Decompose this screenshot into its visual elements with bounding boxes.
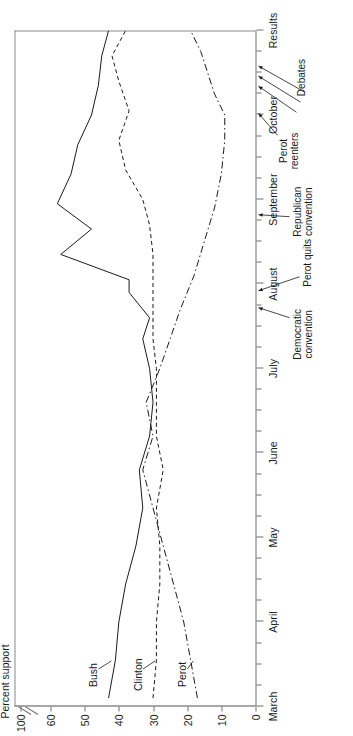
- x-tick-label-july: July: [266, 358, 278, 377]
- x-tick-minor: [256, 494, 261, 495]
- x-tick-label-august: August: [266, 267, 278, 300]
- x-tick-label-october: October: [266, 95, 278, 133]
- y-tick: [255, 706, 256, 711]
- y-tick-label-0: 0: [249, 714, 261, 736]
- x-tick-major: [256, 621, 263, 622]
- x-tick-minor: [256, 388, 261, 389]
- x-tick-label-september: September: [266, 173, 278, 225]
- x-tick-major: [256, 283, 263, 284]
- x-tick-major: [256, 705, 263, 706]
- x-tick-minor: [256, 684, 261, 685]
- x-tick-major: [256, 367, 263, 368]
- annotation-arrow: [258, 76, 262, 80]
- y-tick: [153, 706, 154, 711]
- x-tick-label-june: June: [266, 441, 278, 464]
- x-tick-minor: [256, 304, 261, 305]
- x-tick-minor: [256, 177, 261, 178]
- x-tick-minor: [256, 409, 261, 410]
- x-tick-minor: [256, 50, 261, 51]
- annotation-text: Democratic: [291, 309, 302, 360]
- y-tick: [221, 706, 222, 711]
- y-tick: [187, 706, 188, 711]
- x-tick-minor: [256, 473, 261, 474]
- y-tick: [50, 706, 51, 711]
- annotation-debates: Debates: [295, 58, 306, 95]
- x-tick-label-may: May: [266, 527, 278, 547]
- y-tick: [118, 706, 119, 711]
- x-tick-major: [256, 198, 263, 199]
- annotation-text: reenters: [288, 132, 299, 169]
- x-tick-minor: [256, 135, 261, 136]
- x-tick-major: [256, 29, 263, 30]
- rotated-figure-wrapper: Percent support MarchAprilMayJuneJulyAug…: [0, 0, 353, 736]
- annotation-arrow: [258, 86, 262, 90]
- x-tick-label-march: March: [266, 691, 278, 721]
- y-tick-label-60: 60: [44, 714, 56, 736]
- leader-line: [258, 307, 289, 317]
- x-tick-label-april: April: [266, 611, 278, 633]
- x-tick-minor: [256, 325, 261, 326]
- annotation-text: convention: [302, 309, 313, 360]
- y-tick-label-50: 50: [78, 714, 90, 736]
- x-tick-major: [256, 536, 263, 537]
- x-tick-minor: [256, 92, 261, 93]
- x-tick-label-results: Results: [266, 12, 278, 48]
- series-line-clinton: [112, 30, 163, 698]
- x-tick-minor: [256, 599, 261, 600]
- annotation-perot-reenters: Perotreenters: [277, 132, 299, 169]
- annotation-text: convention: [302, 186, 313, 236]
- y-axis-break: [26, 698, 40, 714]
- x-tick-minor: [256, 578, 261, 579]
- x-tick-minor: [256, 557, 261, 558]
- series-label-clinton: Clinton: [131, 658, 143, 691]
- y-tick-label-40: 40: [112, 714, 124, 736]
- x-tick-minor: [256, 156, 261, 157]
- y-tick-label-20: 20: [181, 714, 193, 736]
- y-tick-label-10: 10: [215, 714, 227, 736]
- annotation-perot-quits: Perot quits: [301, 238, 312, 286]
- y-tick-label-30: 30: [147, 714, 159, 736]
- y-axis-title: Percent support: [0, 644, 10, 718]
- x-tick-major: [256, 452, 263, 453]
- x-tick-minor: [256, 515, 261, 516]
- series-label-perot: Perot: [175, 661, 187, 686]
- annotation-text: Perot: [277, 132, 288, 169]
- annotation-arrow: [258, 307, 262, 310]
- annotation-text: Debates: [295, 58, 306, 95]
- series-line-bush: [57, 30, 153, 698]
- x-tick-minor: [256, 663, 261, 664]
- series-line-perot: [142, 30, 224, 698]
- annotation-arrow: [258, 287, 262, 290]
- series-label-bush: Bush: [86, 663, 98, 687]
- x-tick-minor: [256, 240, 261, 241]
- x-tick-minor: [256, 71, 261, 72]
- x-tick-minor: [256, 430, 261, 431]
- annotation-arrow: [258, 213, 262, 217]
- y-tick: [84, 706, 85, 711]
- x-tick-minor: [256, 346, 261, 347]
- y-tick-label-100: 100: [14, 714, 26, 736]
- poll-line-chart: Percent support MarchAprilMayJuneJulyAug…: [0, 0, 353, 736]
- annotation-arrow: [258, 65, 262, 69]
- annotation-republican-convention: Republicanconvention: [291, 186, 313, 236]
- leader-line: [258, 276, 299, 290]
- series-lines: [14, 30, 255, 706]
- annotation-democratic-convention: Democraticconvention: [291, 309, 313, 360]
- annotation-text: Republican: [291, 186, 302, 236]
- x-tick-minor: [256, 261, 261, 262]
- leader-line: [258, 76, 300, 102]
- x-tick-major: [256, 114, 263, 115]
- annotation-text: Perot quits: [301, 238, 312, 286]
- x-tick-minor: [256, 642, 261, 643]
- x-tick-minor: [256, 219, 261, 220]
